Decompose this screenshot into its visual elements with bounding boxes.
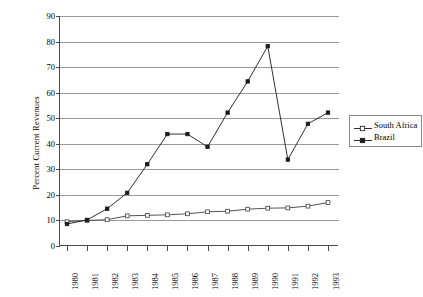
line-chart: Percent Current Revenues 010203040506070… <box>0 0 423 297</box>
legend-item-south-africa[interactable]: South Africa <box>353 119 417 131</box>
filled-square-marker-icon <box>353 132 373 143</box>
x-tick-mark <box>208 246 209 251</box>
x-tick-label-1989: 1989 <box>251 273 260 290</box>
legend-label: South Africa <box>373 120 417 131</box>
data-point-brazil-1983 <box>126 191 129 194</box>
x-tick-label-1984: 1984 <box>151 273 160 290</box>
x-tick-label-1991: 1991 <box>291 273 300 290</box>
data-point-brazil-1985 <box>166 132 169 135</box>
series-layer <box>59 16 338 246</box>
data-point-brazil-1992 <box>306 122 309 125</box>
open-square-marker-icon <box>353 120 373 131</box>
x-tick-mark <box>248 246 249 251</box>
data-point-brazil-1982 <box>105 207 108 210</box>
y-tick-label: 90 <box>25 12 55 21</box>
x-tick-mark <box>87 246 88 251</box>
data-point-brazil-1993 <box>326 111 329 114</box>
y-tick-label: 80 <box>25 38 55 47</box>
x-tick-label-1990: 1990 <box>271 273 280 290</box>
y-tick-label: 0 <box>25 242 55 251</box>
data-point-south-africa-1986 <box>186 212 190 216</box>
series-line-brazil <box>67 46 328 224</box>
data-point-brazil-1989 <box>246 80 249 83</box>
y-tick-label: 50 <box>25 114 55 123</box>
x-tick-mark <box>107 246 108 251</box>
data-point-south-africa-1991 <box>286 206 290 210</box>
x-tick-mark <box>147 246 148 251</box>
data-point-brazil-1980 <box>65 222 68 225</box>
x-tick-mark <box>67 246 68 251</box>
x-tick-mark <box>328 246 329 251</box>
x-tick-label-1980: 1980 <box>71 273 80 290</box>
data-point-south-africa-1988 <box>226 209 230 213</box>
x-tick-label-1992: 1992 <box>311 273 320 290</box>
data-point-south-africa-1982 <box>105 218 109 222</box>
data-point-brazil-1991 <box>286 158 289 161</box>
data-point-brazil-1990 <box>266 44 269 47</box>
x-tick-mark <box>228 246 229 251</box>
x-tick-mark <box>308 246 309 251</box>
data-point-brazil-1987 <box>206 145 209 148</box>
data-point-brazil-1988 <box>226 111 229 114</box>
y-tick-label: 60 <box>25 89 55 98</box>
x-tick-mark <box>268 246 269 251</box>
x-tick-mark <box>167 246 168 251</box>
x-tick-label-1986: 1986 <box>191 273 200 290</box>
data-point-south-africa-1983 <box>125 214 129 218</box>
x-tick-label-1987: 1987 <box>211 273 220 290</box>
x-tick-mark <box>127 246 128 251</box>
x-tick-label-1981: 1981 <box>91 273 100 290</box>
x-tick-label-1983: 1983 <box>131 273 140 290</box>
x-tick-mark <box>187 246 188 251</box>
y-tick-label: 10 <box>25 216 55 225</box>
data-point-south-africa-1989 <box>246 207 250 211</box>
y-axis-tick-labels: 0102030405060708090 <box>23 16 55 246</box>
y-tick-label: 40 <box>25 140 55 149</box>
x-tick-label-1988: 1988 <box>231 273 240 290</box>
x-axis-ticks <box>59 246 338 251</box>
legend[interactable]: South AfricaBrazil <box>349 115 422 147</box>
legend-item-brazil[interactable]: Brazil <box>353 131 417 143</box>
x-tick-label-1982: 1982 <box>111 273 120 290</box>
data-point-brazil-1981 <box>85 218 88 221</box>
data-point-south-africa-1985 <box>165 213 169 217</box>
y-tick-label: 30 <box>25 165 55 174</box>
data-point-south-africa-1993 <box>326 201 330 205</box>
data-point-brazil-1986 <box>186 132 189 135</box>
data-point-south-africa-1984 <box>145 213 149 217</box>
x-tick-label-1993: 1993 <box>332 273 341 290</box>
data-point-south-africa-1990 <box>266 206 270 210</box>
x-tick-label-1985: 1985 <box>171 273 180 290</box>
data-point-south-africa-1992 <box>306 204 310 208</box>
data-point-brazil-1984 <box>146 163 149 166</box>
y-tick-label: 70 <box>25 63 55 72</box>
y-tick-label: 20 <box>25 191 55 200</box>
data-point-south-africa-1987 <box>206 210 210 214</box>
x-axis-tick-labels: 1980198119821983198419851986198719881989… <box>59 252 338 296</box>
legend-label: Brazil <box>373 132 395 143</box>
x-tick-mark <box>288 246 289 251</box>
